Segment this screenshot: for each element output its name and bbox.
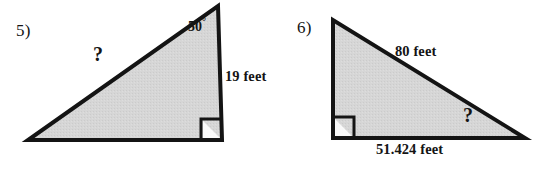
problem-6-angle-label: ? (463, 105, 473, 125)
triangle-6-body (333, 20, 525, 138)
worksheet-canvas: 5) 50° ? 19 feet 6) 80 feet 51.424 feet … (0, 0, 547, 169)
problem-5-vertical-leg-label: 19 feet (225, 69, 266, 84)
problem-6-number: 6) (297, 19, 312, 36)
degree-symbol-icon: ° (202, 16, 206, 27)
problem-6: 6) 80 feet 51.424 feet ? (273, 0, 547, 169)
problem-5-hypotenuse-label: ? (93, 44, 103, 64)
problem-5-angle-value: 50 (188, 19, 202, 34)
problem-6-hypotenuse-label: 80 feet (395, 44, 436, 59)
problem-6-base-label: 51.424 feet (376, 142, 443, 157)
problem-5-angle-label: 50° (188, 17, 206, 34)
problem-5: 5) 50° ? 19 feet (0, 0, 273, 169)
problem-5-number: 5) (16, 22, 31, 39)
triangle-5-figure (0, 0, 273, 169)
